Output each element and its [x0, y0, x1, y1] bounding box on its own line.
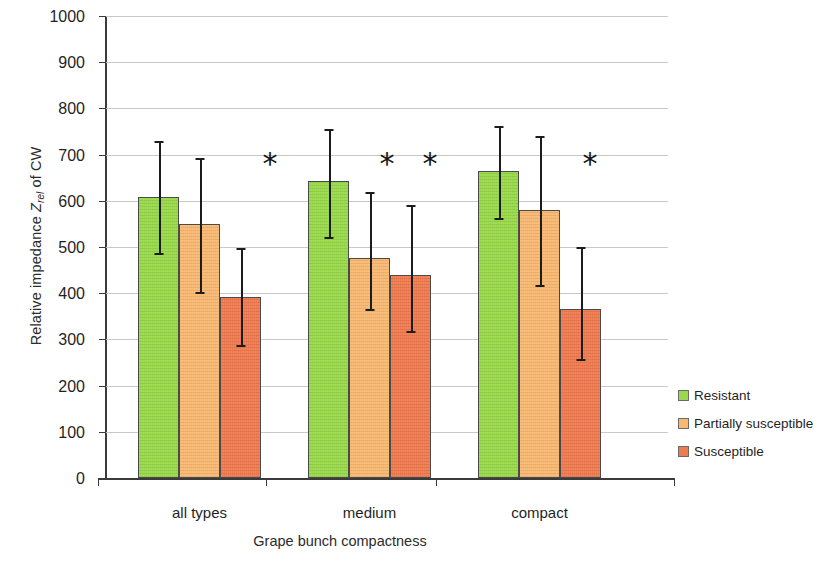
error-bar-cap-upper: [494, 126, 503, 128]
legend-swatch-icon: [678, 418, 689, 429]
error-bar-cap-upper: [236, 248, 245, 250]
y-tick-label: 200: [58, 378, 85, 396]
y-tick-label: 300: [58, 331, 85, 349]
significance-asterisk: *: [263, 149, 278, 179]
legend-item-susceptible[interactable]: Susceptible: [678, 437, 839, 465]
error-bar: [200, 158, 202, 292]
gridline: [106, 201, 668, 202]
error-bar: [159, 141, 161, 253]
y-tick-mark: 400: [99, 293, 106, 294]
x-tick-mark: [436, 478, 437, 486]
error-bar-cap-upper: [576, 247, 585, 249]
y-tick-mark: 100: [99, 432, 106, 433]
legend-swatch-icon: [678, 390, 689, 401]
plot-area: 10009008007006005004003002001000 **** al…: [106, 16, 668, 478]
y-tick-label: 1000: [49, 8, 85, 26]
y-tick-mark: 500: [99, 247, 106, 248]
significance-asterisk: *: [380, 149, 395, 179]
error-bar-cap-upper: [195, 158, 204, 160]
chart-screenshot: Relative impedance Zrel of CW 1000900800…: [0, 0, 839, 561]
x-tick-mark: [266, 478, 267, 486]
x-axis-title: Grape bunch compactness: [0, 533, 680, 549]
error-bar-cap-lower: [324, 237, 333, 239]
y-axis-title: Relative impedance Zrel of CW: [28, 96, 46, 396]
x-category-label-medium: medium: [343, 504, 396, 521]
y-tick-mark: 900: [99, 62, 106, 63]
x-category-label-compact: compact: [511, 504, 568, 521]
gridline: [106, 62, 668, 63]
y-tick-label: 700: [58, 147, 85, 165]
y-tick-label: 600: [58, 193, 85, 211]
gridline: [106, 108, 668, 109]
error-bar: [411, 205, 413, 331]
legend-label: Resistant: [694, 388, 750, 403]
error-bar-cap-upper: [365, 192, 374, 194]
legend-item-resistant[interactable]: Resistant: [678, 381, 839, 409]
error-bar-cap-lower: [576, 359, 585, 361]
y-axis-title-prefix: Relative impedance: [28, 212, 44, 345]
error-bar-cap-upper: [406, 205, 415, 207]
x-tick-mark: [98, 478, 99, 486]
error-bar: [370, 192, 372, 310]
error-bar-cap-lower: [494, 218, 503, 220]
y-tick-mark: 200: [99, 386, 106, 387]
y-tick-label: 500: [58, 239, 85, 257]
significance-asterisk: *: [583, 149, 598, 179]
error-bar-cap-lower: [535, 285, 544, 287]
x-tick-mark: [674, 478, 675, 486]
significance-asterisk: *: [423, 149, 438, 179]
y-axis-title-suffix: of CW: [28, 147, 44, 192]
error-bar-cap-lower: [236, 345, 245, 347]
y-tick-label: 800: [58, 100, 85, 118]
y-axis-title-subscript: rel: [35, 192, 46, 203]
y-axis-title-symbol: Z: [28, 203, 44, 212]
error-bar-cap-upper: [535, 136, 544, 138]
error-bar: [540, 136, 542, 285]
legend-swatch-icon: [678, 446, 689, 457]
x-axis-line: [98, 478, 674, 480]
y-tick-mark: 700: [99, 155, 106, 156]
error-bar: [329, 129, 331, 237]
error-bar: [581, 247, 583, 359]
y-tick-label: 0: [76, 470, 85, 488]
y-tick-mark: 0: [99, 478, 106, 479]
y-tick-mark: 800: [99, 108, 106, 109]
x-category-label-all-types: all types: [172, 504, 227, 521]
y-tick-mark: 300: [99, 339, 106, 340]
error-bar-cap-lower: [154, 253, 163, 255]
y-tick-label: 900: [58, 54, 85, 72]
legend-label: Partially susceptible: [694, 416, 813, 431]
error-bar-cap-lower: [365, 309, 374, 311]
error-bar-cap-lower: [406, 331, 415, 333]
legend: ResistantPartially susceptibleSusceptibl…: [678, 381, 839, 465]
error-bar: [241, 248, 243, 345]
error-bar-cap-upper: [154, 141, 163, 143]
error-bar: [499, 126, 501, 218]
error-bar-cap-lower: [195, 292, 204, 294]
legend-item-partially-susceptible[interactable]: Partially susceptible: [678, 409, 839, 437]
y-tick-label: 100: [58, 424, 85, 442]
y-tick-label: 400: [58, 285, 85, 303]
y-tick-mark: 600: [99, 201, 106, 202]
gridline: [106, 16, 668, 17]
error-bar-cap-upper: [324, 129, 333, 131]
y-tick-mark: 1000: [99, 16, 106, 17]
legend-label: Susceptible: [694, 444, 764, 459]
